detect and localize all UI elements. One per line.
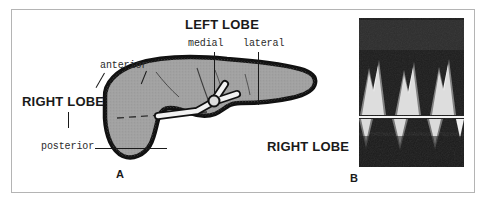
label-anterior: anterior <box>100 60 147 71</box>
label-lateral: lateral <box>243 38 284 49</box>
label-right-lobe-ultrasound: RIGHT LOBE <box>267 139 349 154</box>
ultrasound-image <box>359 18 464 167</box>
doppler-waveform <box>359 18 464 167</box>
leader-right-lobe <box>68 112 69 128</box>
leader-posterior <box>95 148 167 149</box>
label-medial: medial <box>188 38 223 49</box>
leader-lateral <box>258 52 259 105</box>
panel-b-letter: B <box>350 172 358 184</box>
label-posterior: posterior <box>41 141 94 152</box>
panel-a-letter: A <box>116 168 124 180</box>
leader-medial <box>214 52 215 96</box>
label-left-lobe: LEFT LOBE <box>185 17 259 32</box>
label-right-lobe-diagram: RIGHT LOBE <box>22 94 104 109</box>
medical-figure: LEFT LOBE RIGHT LOBE medial lateral ante… <box>0 0 485 209</box>
